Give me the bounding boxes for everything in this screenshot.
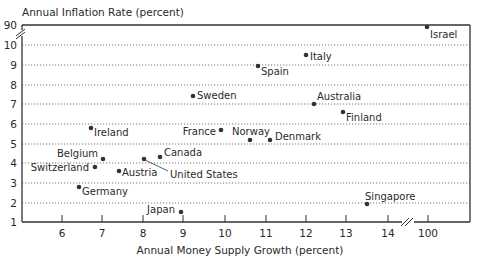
svg-text:Australia: Australia [317,91,361,102]
svg-text:Norway: Norway [232,126,270,137]
svg-text:Singapore: Singapore [365,191,415,202]
point-denmark [268,138,273,143]
svg-text:Switzerland: Switzerland [31,162,89,173]
svg-text:90: 90 [4,19,17,31]
svg-text:Denmark: Denmark [275,131,321,142]
svg-text:6: 6 [59,227,66,239]
point-france [219,128,224,133]
svg-text:10: 10 [218,227,231,239]
point-spain [256,64,261,69]
point-israel [425,25,430,30]
svg-text:9: 9 [10,59,17,71]
svg-text:14: 14 [381,227,395,239]
point-singapore [365,202,370,207]
svg-text:100: 100 [418,227,438,239]
svg-text:United States: United States [170,169,238,180]
svg-text:9: 9 [180,227,187,239]
x-ticks [62,215,428,222]
y-tick-labels: 1 2 3 4 5 6 7 8 9 10 90 [4,19,18,228]
point-germany [77,185,82,190]
svg-text:1: 1 [10,216,17,228]
point-canada [158,155,163,160]
svg-text:10: 10 [4,39,17,51]
svg-text:8: 8 [10,79,17,91]
x-axis-title: Annual Money Supply Growth (percent) [137,244,344,256]
svg-text:2: 2 [10,197,17,209]
svg-text:Austria: Austria [122,167,157,178]
point-ireland [89,126,94,131]
svg-text:Canada: Canada [164,147,202,158]
svg-text:7: 7 [10,98,17,110]
svg-text:3: 3 [10,177,17,189]
svg-text:France: France [183,126,216,137]
svg-text:12: 12 [299,227,312,239]
svg-text:8: 8 [140,227,147,239]
svg-text:11: 11 [259,227,272,239]
svg-text:5: 5 [10,138,17,150]
point-finland [341,110,346,115]
point-labels: Israel Italy Spain Sweden Australia Finl… [31,29,458,215]
point-italy [304,53,309,58]
gridlines [22,45,470,203]
svg-text:Spain: Spain [261,66,289,77]
svg-text:Japan: Japan [146,204,175,215]
x-axis-break-icon [401,218,414,226]
svg-text:Ireland: Ireland [94,127,129,138]
point-australia [312,102,317,107]
svg-text:13: 13 [339,227,352,239]
point-austria [117,169,122,174]
point-sweden [191,94,196,99]
svg-text:Italy: Italy [310,51,332,62]
svg-text:6: 6 [10,118,17,130]
svg-text:Finland: Finland [346,112,382,123]
svg-text:4: 4 [10,157,17,169]
svg-text:7: 7 [99,227,106,239]
y-axis-title: Annual Inflation Rate (percent) [22,6,184,18]
svg-text:Israel: Israel [430,29,457,40]
point-switzerland [93,165,98,170]
point-japan [179,210,184,215]
svg-text:Germany: Germany [82,186,128,197]
svg-text:Belgium: Belgium [57,148,98,159]
x-tick-labels: 6 7 8 9 10 11 12 13 14 100 [59,227,438,239]
point-belgium [101,157,106,162]
point-norway [248,138,253,143]
svg-text:Sweden: Sweden [197,90,237,101]
scatter-chart: Annual Inflation Rate (percent) [0,0,478,261]
